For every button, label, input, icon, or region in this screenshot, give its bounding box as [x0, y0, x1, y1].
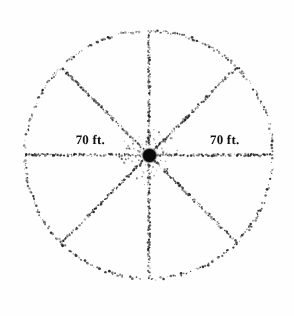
- dimension-label-right: 70 ft.: [210, 133, 250, 146]
- wheel-hub: [143, 149, 156, 162]
- dimension-label-left: 70 ft.: [65, 133, 105, 146]
- wheel-diagram-figure: 70 ft. 70 ft.: [0, 0, 294, 316]
